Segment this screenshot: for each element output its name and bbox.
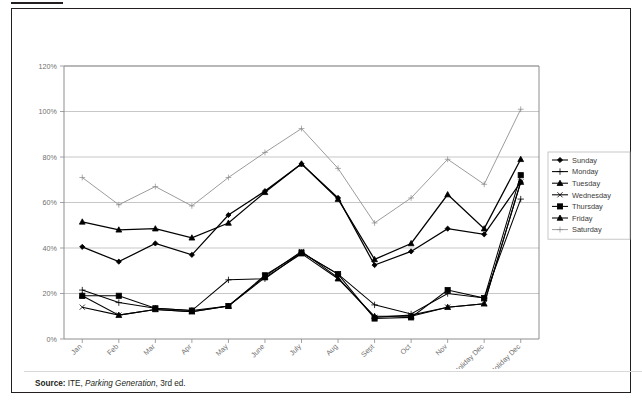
legend-label: Sunday — [572, 156, 597, 165]
y-axis-label: 120% — [39, 62, 58, 71]
series-monday — [79, 196, 524, 317]
x-axis-label: Aug — [324, 342, 339, 357]
data-point-plus — [152, 184, 158, 190]
x-axis-label: Jan — [69, 342, 84, 357]
data-point-square — [445, 287, 450, 292]
corner-tick-mark — [11, 2, 63, 4]
x-axis-label: Mar — [142, 342, 158, 358]
data-point-plus — [262, 150, 268, 156]
x-axis-label: June — [249, 342, 266, 359]
data-point-square — [262, 273, 267, 278]
source-title: Parking Generation — [85, 379, 156, 388]
data-point-plus — [116, 299, 122, 305]
x-axis-label: Feb — [105, 342, 120, 357]
series-thursday — [80, 173, 524, 322]
series-line — [82, 199, 520, 314]
data-point-square — [189, 308, 194, 313]
data-point-plus — [518, 196, 524, 202]
x-axis-label: July — [288, 342, 304, 358]
chart-plot-area: 0%20%40%60%80%100%120%JanFebMarAprMayJun… — [12, 9, 632, 394]
x-axis-label: Holiday Dec — [488, 342, 522, 369]
line-chart: 0%20%40%60%80%100%120%JanFebMarAprMayJun… — [12, 9, 632, 369]
series-friday — [79, 156, 523, 261]
source-edition: , 3rd ed. — [156, 379, 186, 388]
y-axis-label: 60% — [43, 198, 58, 207]
data-point-square — [299, 250, 304, 255]
data-point-diamond — [372, 262, 377, 267]
legend-label: Saturday — [572, 225, 602, 234]
x-axis-label: Sept — [359, 342, 376, 359]
y-axis-label: 0% — [47, 335, 58, 344]
data-point-diamond — [153, 241, 158, 246]
data-point-square — [335, 272, 340, 277]
data-point-square — [116, 293, 121, 298]
x-axis-label: Apr — [179, 342, 194, 357]
data-point-square — [153, 306, 158, 311]
source-divider — [24, 371, 642, 372]
y-axis-label: 100% — [39, 107, 58, 116]
data-point-diamond — [80, 244, 85, 249]
y-axis-label: 80% — [43, 153, 58, 162]
x-axis-label: Nov — [434, 342, 450, 358]
data-point-square — [372, 316, 377, 321]
data-point-square — [80, 293, 85, 298]
figure-container: 0%20%40%60%80%100%120%JanFebMarAprMayJun… — [11, 8, 631, 393]
chart-legend: SundayMondayTuesdayWednesdayThursdayFrid… — [548, 152, 630, 239]
data-point-square — [226, 303, 231, 308]
x-axis-label: Oct — [398, 342, 412, 356]
y-axis-label: 20% — [43, 289, 58, 298]
source-publisher: ITE, — [68, 379, 85, 388]
data-point-square — [409, 315, 414, 320]
source-note: Source: ITE, Parking Generation, 3rd ed. — [35, 379, 186, 388]
legend-label: Friday — [572, 214, 593, 223]
legend-label: Thursday — [572, 202, 603, 211]
data-point-triangle — [79, 219, 85, 224]
data-point-square — [518, 173, 523, 178]
data-point-plus — [481, 181, 487, 187]
data-point-square — [557, 204, 562, 209]
series-line — [82, 159, 520, 259]
legend-label: Wednesday — [572, 191, 611, 200]
data-point-square — [482, 295, 487, 300]
data-point-triangle — [445, 192, 451, 197]
data-point-plus — [372, 220, 378, 226]
x-axis-label: May — [214, 342, 230, 358]
data-point-diamond — [116, 259, 121, 264]
legend-label: Monday — [572, 167, 599, 176]
x-axis-label: Pre-Holiday Dec — [442, 342, 486, 369]
source-label: Source: — [35, 379, 65, 388]
legend-label: Tuesday — [572, 179, 600, 188]
y-axis-label: 40% — [43, 244, 58, 253]
